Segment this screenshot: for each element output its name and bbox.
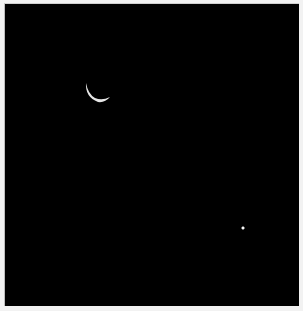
crescent-moon-icon <box>86 83 110 102</box>
star-point-icon <box>241 226 245 230</box>
image-frame <box>0 0 303 311</box>
night-sky-canvas <box>5 4 299 306</box>
night-sky-photo <box>4 3 299 306</box>
